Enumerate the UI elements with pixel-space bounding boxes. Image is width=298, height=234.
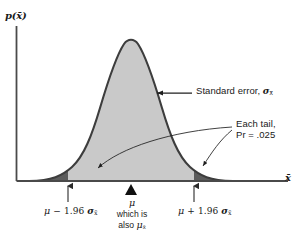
mean-label: μ which is also μx̄: [106, 197, 158, 232]
lower-coefficient: 1.96: [64, 206, 84, 216]
lower-bound-label: μ − 1.96 σx̄: [44, 205, 98, 217]
standard-error-annotation: Standard error, σx̄: [196, 85, 273, 97]
x-axis-label: x̄: [285, 172, 291, 184]
right-tail-arrow: [203, 130, 232, 166]
distribution-curve-group: [29, 40, 233, 181]
each-tail-line2: Pr = .025: [236, 129, 276, 140]
mean-symbol: μ: [106, 197, 158, 209]
upper-mu: μ: [178, 205, 184, 216]
mean-line3: also μx̄: [106, 219, 158, 232]
central-region-fill: [29, 40, 233, 181]
each-tail-annotation: Each tail, Pr = .025: [236, 118, 276, 140]
sigma-subscript: x̄: [270, 89, 273, 96]
upper-sigma-subscript: x̄: [228, 209, 232, 216]
lower-operator: −: [53, 206, 61, 216]
mean-line3-prefix: also: [118, 220, 136, 230]
upper-operator: +: [187, 206, 195, 216]
lower-mu: μ: [44, 205, 50, 216]
each-tail-line1: Each tail,: [236, 118, 276, 129]
sigma-symbol: σ: [263, 86, 270, 96]
y-axis-label: p(x̄): [5, 10, 27, 22]
mean-marker-triangle: [125, 184, 137, 195]
upper-coefficient: 1.96: [198, 206, 218, 216]
standard-error-text: Standard error,: [196, 85, 260, 96]
lower-sigma-subscript: x̄: [94, 209, 98, 216]
mean-line3-subscript: x̄: [143, 224, 146, 230]
distribution-figure: p(x̄) x̄ Standard error, σx̄ Each tail, …: [0, 0, 298, 234]
upper-bound-label: μ + 1.96 σx̄: [178, 205, 232, 217]
mean-line2: which is: [106, 209, 158, 219]
